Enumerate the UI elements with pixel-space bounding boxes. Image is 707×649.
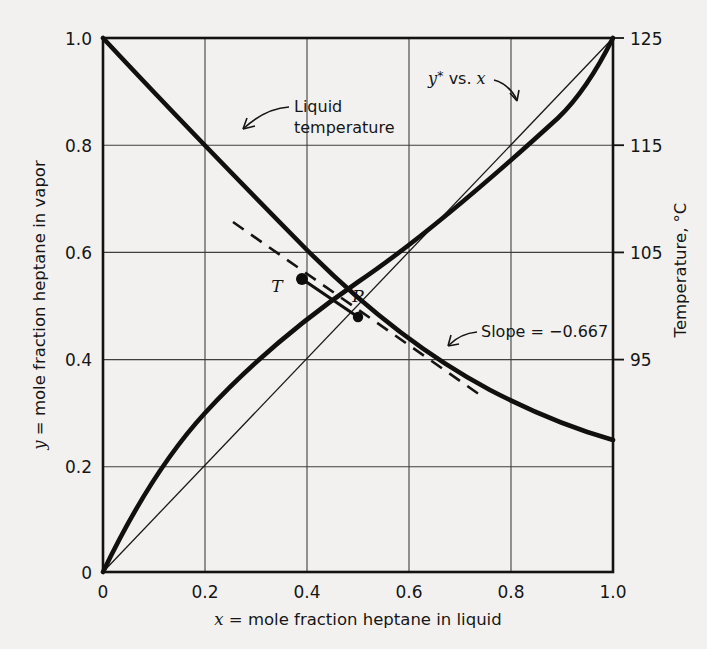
y-tick-4: 0.8 [65,136,92,156]
slope-label: Slope = −0.667 [481,322,608,341]
vle-diagram-figure: T P Liquid temperature y* vs. x Slope = … [0,0,707,649]
x-tick-3: 0.6 [395,582,422,602]
point-p-marker [353,312,363,322]
x-tick-0: 0 [98,582,109,602]
right-tick-115: 115 [630,136,662,156]
right-tick-105: 105 [630,243,662,263]
x-tick-1: 0.2 [191,582,218,602]
right-tick-95: 95 [630,350,652,370]
equilibrium-label: y* vs. x [427,68,486,88]
liquid-temperature-label-line2: temperature [294,118,395,137]
y-tick-2: 0.4 [65,350,92,370]
right-axis-title: Temperature, °C [671,203,690,339]
y-axis-title: y = mole fraction heptane in vapor [30,160,49,451]
point-t-label: T [271,276,284,296]
x-tick-4: 0.8 [497,582,524,602]
y-tick-0: 0 [81,563,92,583]
x-tick-2: 0.4 [293,582,320,602]
x-tick-5: 1.0 [599,582,626,602]
equilibrium-label-x: x [477,69,486,88]
right-tick-125: 125 [630,29,662,49]
point-t-marker [296,273,308,285]
x-axis-title: x = mole fraction heptane in liquid [214,610,501,629]
point-p-label: P [351,286,364,306]
liquid-temperature-label-line1: Liquid [294,97,342,116]
y-tick-5: 1.0 [65,29,92,49]
chart-svg: T P Liquid temperature y* vs. x Slope = … [0,0,707,649]
y-tick-3: 0.6 [65,243,92,263]
y-tick-1: 0.2 [65,457,92,477]
